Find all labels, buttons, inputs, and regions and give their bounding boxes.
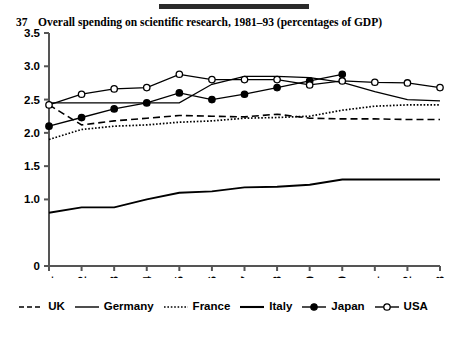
x-tick-label: 1985 [173,276,185,278]
series-line-uk [49,105,440,125]
data-point-usa [339,78,345,84]
legend-label: USA [404,300,428,312]
data-point-usa [209,76,215,82]
data-point-usa [404,80,410,86]
data-point-usa [78,91,84,97]
x-tick-label: 1989 [304,276,316,278]
series-line-italy [49,180,440,213]
solid-line-swatch [74,301,100,312]
data-point-usa [241,76,247,82]
chart-legend: UKGermanyFranceItalyJapanUSA [0,300,455,312]
filled-circle-line-swatch [301,301,327,312]
legend-label: Germany [104,300,154,312]
x-tick-label: 1987 [239,276,251,278]
legend-label: Italy [269,300,292,312]
data-point-japan [241,91,247,97]
data-point-usa [144,84,150,90]
y-tick-label: 0 [34,260,40,272]
y-tick-label: 3.5 [24,28,41,39]
x-tick-label: 1982 [76,276,88,278]
series-line-japan [49,74,342,126]
dotted-line-swatch [163,301,189,312]
y-tick-label: 1.0 [24,193,40,205]
data-point-usa [274,76,280,82]
header-rule [159,4,309,9]
legend-item-usa[interactable]: USA [374,300,428,312]
y-tick-label: 1.5 [24,160,41,172]
x-tick-label: 1983 [108,276,120,278]
x-tick-label: 1992 [401,276,413,278]
legend-item-germany[interactable]: Germany [74,300,154,312]
page-title: 37Overall spending on scientific researc… [16,16,446,28]
data-point-japan [176,90,182,96]
data-point-japan [209,96,215,102]
data-point-usa [372,79,378,85]
line-chart-svg: 01.01.52.02.53.03.5198119821983198419851… [0,28,455,278]
data-point-usa [437,84,443,90]
x-tick-label: 1990 [336,276,348,278]
legend-item-france[interactable]: France [163,300,231,312]
legend-label: Japan [331,300,364,312]
data-point-japan [78,114,84,120]
dashed-line-swatch [18,301,44,312]
data-point-japan [274,84,280,90]
data-point-usa [176,71,182,77]
y-tick-label: 2.5 [24,94,41,106]
data-point-japan [46,123,52,129]
data-point-usa [46,102,52,108]
legend-item-italy[interactable]: Italy [239,300,292,312]
x-tick-label: 1981 [43,276,55,278]
y-tick-label: 2.0 [24,127,40,139]
data-point-usa [306,82,312,88]
thick-line-swatch [239,301,265,312]
y-tick-label: 3.0 [24,60,40,72]
figure-title: Overall spending on scientific research,… [38,16,382,28]
data-point-usa [111,86,117,92]
legend-item-japan[interactable]: Japan [301,300,364,312]
data-point-japan [144,100,150,106]
data-point-japan [111,106,117,112]
x-tick-label: 1986 [206,276,218,278]
x-tick-label: 1988 [271,276,283,278]
open-circle-line-swatch [374,301,400,312]
x-tick-label: 1991 [369,276,381,278]
figure-number: 37 [16,16,38,28]
legend-label: France [193,300,231,312]
x-tick-label: 1993 [434,276,446,278]
legend-item-uk[interactable]: UK [18,300,65,312]
data-point-japan [339,71,345,77]
x-tick-label: 1984 [141,275,153,278]
chart-plot-area: 01.01.52.02.53.03.5198119821983198419851… [0,28,455,278]
legend-label: UK [48,300,65,312]
